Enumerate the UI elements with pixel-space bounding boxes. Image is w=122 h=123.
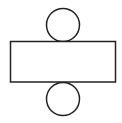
bottom-circle-base [47,83,80,116]
cylinder-net-diagram [0,0,122,123]
lateral-surface-rectangle [11,42,116,83]
diagram-svg [0,0,122,123]
top-circle-base [47,9,80,42]
